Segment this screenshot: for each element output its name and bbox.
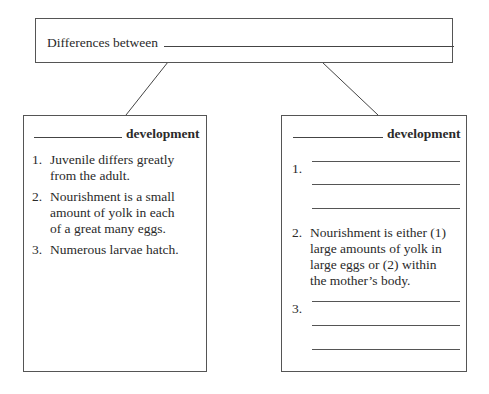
right-heading-blank[interactable] (293, 136, 383, 138)
item-text: Nourishment is either (1) (310, 225, 460, 241)
item-number: 3. (292, 301, 302, 317)
answer-blank[interactable] (312, 184, 460, 185)
list-item: 1. (292, 161, 460, 209)
left-heading-blank[interactable] (34, 136, 122, 138)
item-text: large eggs or (2) within (310, 257, 460, 273)
item-number: 3. (32, 242, 42, 258)
list-item: 2. Nourishment is either (1) large amoun… (292, 225, 460, 289)
left-heading-label: development (126, 126, 200, 141)
answer-blank[interactable] (312, 325, 460, 326)
item-text: amount of yolk in each (50, 205, 202, 221)
right-list: 1. 2. Nourishment is either (1) large am… (292, 149, 460, 350)
title-prefix: Differences between (47, 35, 158, 50)
right-development-box: development 1. 2. Nourishment is either … (281, 115, 467, 372)
item-text: Nourishment is a small (50, 189, 202, 205)
item-text: of a great many eggs. (50, 221, 202, 237)
answer-blank[interactable] (312, 208, 460, 209)
answer-blank[interactable] (312, 161, 460, 162)
item-text: Juvenile differs greatly (50, 152, 202, 168)
right-heading-label: development (387, 126, 461, 141)
item-text: from the adult. (50, 168, 202, 184)
item-text: large amounts of yolk in (310, 241, 460, 257)
title-blank[interactable] (164, 45, 454, 47)
left-development-box: development 1. Juvenile differs greatly … (23, 115, 207, 372)
list-item: 3. (292, 301, 460, 350)
item-number: 1. (292, 161, 302, 177)
left-heading: development (34, 126, 200, 142)
title-line: Differences between (47, 35, 454, 51)
title-box: Differences between (35, 18, 453, 63)
item-text: Numerous larvae hatch. (50, 242, 202, 258)
item-number: 2. (32, 189, 42, 205)
list-item: 1. Juvenile differs greatly from the adu… (32, 152, 202, 184)
left-list: 1. Juvenile differs greatly from the adu… (32, 152, 202, 258)
item-number: 2. (292, 225, 302, 241)
list-item: 2. Nourishment is a small amount of yolk… (32, 189, 202, 237)
right-heading: development (293, 126, 461, 142)
answer-blank[interactable] (312, 301, 460, 302)
list-item: 3. Numerous larvae hatch. (32, 242, 202, 258)
item-text: the mother’s body. (310, 273, 460, 289)
answer-blank[interactable] (312, 349, 460, 350)
item-number: 1. (32, 152, 42, 168)
